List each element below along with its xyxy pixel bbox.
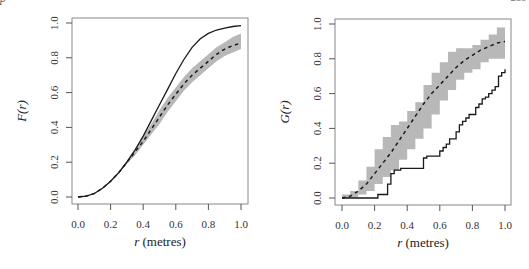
plot-f-function: 0.00.20.40.60.81.00.00.20.40.60.81.0r (m… <box>14 16 248 249</box>
figure: 0.00.20.40.60.81.00.00.20.40.60.81.0r (m… <box>0 0 529 269</box>
x-tick-label: 0.4 <box>400 219 414 231</box>
y-tick-label: 0.6 <box>311 86 323 100</box>
x-tick-label: 0.6 <box>433 219 447 231</box>
x-tick-label: 0.2 <box>368 219 382 231</box>
plot-g-function: 0.00.20.40.60.81.00.00.20.40.60.81.0r (m… <box>277 17 512 250</box>
y-tick-label: 0.4 <box>311 121 323 135</box>
x-tick-label: 0.8 <box>466 219 480 231</box>
y-tick-label: 0.8 <box>311 51 323 65</box>
y-tick-label: 0.6 <box>48 85 60 99</box>
y-tick-label: 1.0 <box>48 16 60 30</box>
x-tick-label: 0.0 <box>335 219 349 231</box>
y-tick-label: 0.0 <box>311 191 323 205</box>
x-tick-label: 0.8 <box>202 218 216 230</box>
y-tick-label: 0.8 <box>48 50 60 64</box>
x-tick-label: 0.6 <box>169 218 183 230</box>
y-tick-label: 0.4 <box>48 120 60 134</box>
x-tick-label: 0.4 <box>136 218 150 230</box>
y-axis-title: G(r) <box>277 100 292 123</box>
x-axis-title: r (metres) <box>134 234 186 249</box>
y-axis-title: F(r) <box>14 100 29 123</box>
x-tick-label: 0.0 <box>71 218 85 230</box>
y-tick-label: 0.2 <box>48 155 60 169</box>
envelope-band <box>78 33 241 197</box>
y-tick-label: 0.2 <box>311 156 323 170</box>
x-tick-label: 1.0 <box>234 218 248 230</box>
y-tick-label: 1.0 <box>311 17 323 31</box>
x-axis-title: r (metres) <box>397 235 449 250</box>
y-tick-label: 0.0 <box>48 190 60 204</box>
x-tick-label: 1.0 <box>498 219 512 231</box>
x-tick-label: 0.2 <box>104 218 118 230</box>
